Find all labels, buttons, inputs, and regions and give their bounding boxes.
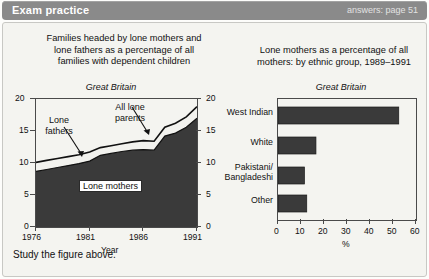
left-chart-title-line-2: lone fathers as a percentage of all: [15, 45, 233, 57]
left-ytickmark-15: [30, 130, 35, 131]
left-ytick-20: 20: [15, 93, 25, 103]
figure-panel: Families headed by lone mothers and lone…: [2, 22, 427, 277]
bar-white: [278, 137, 316, 154]
right-xtickmark-60: [415, 219, 416, 224]
annotation-all-lone-parents-line-1: All lone: [104, 102, 156, 113]
right-category-pakistani: Pakistani/: [219, 162, 273, 172]
left-chart-title-line-3: families with dependent children: [15, 56, 233, 68]
annotation-lone-mothers: Lone mothers: [79, 180, 142, 192]
page-title: Exam practice: [12, 4, 89, 16]
left-chart-title-line-1: Families headed by lone mothers and: [15, 33, 233, 45]
left-chart-subtitle: Great Britain: [15, 82, 207, 92]
right-category-west-indian: West Indian: [225, 107, 273, 117]
right-category-pakistani-bangladeshi: Pakistani/ Bangladeshi: [219, 162, 273, 182]
right-chart-title-line-1: Lone mothers as a percentage of all: [239, 45, 429, 57]
left-ytickmark-right-5: [196, 194, 201, 195]
answers-reference: answers: page 51: [347, 5, 418, 15]
left-xtickmark-1986: [142, 226, 143, 231]
arrowhead-all-lone-parents: [144, 129, 151, 135]
left-xtick-1981: 1981: [76, 232, 95, 242]
right-category-bangladeshi: Bangladeshi: [219, 172, 273, 182]
left-ytickmark-20: [30, 98, 35, 99]
right-xtick-40: 40: [364, 226, 374, 236]
left-xtick-1991: 1991: [183, 232, 202, 242]
right-category-white: White: [225, 137, 273, 147]
right-xtick-20: 20: [318, 226, 328, 236]
right-xtick-10: 10: [295, 226, 305, 236]
annotation-lone-fathers-line-2: fathers: [36, 126, 82, 137]
left-ytick-right-10: 10: [206, 157, 216, 167]
chart-lone-mothers-ethnic: Lone mothers as a percentage of all moth…: [241, 23, 429, 276]
right-chart-title-line-2: mothers: by ethnic group, 1989–1991: [239, 57, 429, 69]
left-xtickmark-1991: [196, 226, 197, 231]
left-chart-title: Families headed by lone mothers and lone…: [15, 33, 233, 68]
annotation-lone-fathers-line-1: Lone: [36, 115, 82, 126]
left-ytick-10: 10: [19, 157, 29, 167]
left-ytick-right-0: 0: [206, 221, 211, 231]
annotation-lone-fathers: Lone fathers: [36, 115, 82, 137]
header-bar: Exam practice answers: page 51: [2, 1, 427, 20]
left-ytick-right-15: 15: [206, 125, 216, 135]
right-chart-title: Lone mothers as a percentage of all moth…: [239, 45, 429, 68]
left-ytickmark-right-15: [196, 130, 201, 131]
exam-practice-page: Exam practice answers: page 51 Families …: [0, 0, 429, 279]
left-ytickmark-5: [30, 194, 35, 195]
left-ytick-5: 5: [24, 189, 29, 199]
right-xtickmark-30: [346, 219, 347, 224]
figure-caption: Study the figure above.: [13, 249, 116, 260]
left-xtickmark-1981: [89, 226, 90, 231]
annotation-all-lone-parents: All lone parents: [104, 102, 156, 124]
left-ytick-right-20: 20: [206, 93, 216, 103]
bar-other: [278, 195, 307, 212]
chart-lone-parents-trend: Families headed by lone mothers and lone…: [3, 23, 243, 276]
right-xtickmark-20: [323, 219, 324, 224]
left-xtick-1986: 1986: [129, 232, 148, 242]
right-xtick-60: 60: [410, 226, 420, 236]
right-chart-xaxis-label: %: [342, 239, 350, 249]
left-ytick-15: 15: [19, 125, 29, 135]
right-chart-plot-area: [277, 98, 417, 221]
right-chart-svg: [278, 99, 416, 220]
left-ytickmark-right-10: [196, 162, 201, 163]
right-chart-subtitle: Great Britain: [261, 82, 421, 92]
right-xtickmark-0: [277, 219, 278, 224]
bar-west-indian: [278, 107, 399, 124]
right-category-other: Other: [225, 195, 273, 205]
right-xtickmark-10: [300, 219, 301, 224]
left-ytickmark-10: [30, 162, 35, 163]
annotation-all-lone-parents-line-2: parents: [104, 113, 156, 124]
left-xtickmark-1976: [35, 226, 36, 231]
left-ytick-0: 0: [24, 221, 29, 231]
left-ytickmark-right-20: [196, 98, 201, 99]
right-xtickmark-50: [392, 219, 393, 224]
right-xtick-30: 30: [341, 226, 351, 236]
left-xtick-1976: 1976: [22, 232, 41, 242]
right-xtick-50: 50: [387, 226, 397, 236]
bar-pakistani-bangladeshi: [278, 167, 304, 184]
left-ytick-right-5: 5: [206, 189, 211, 199]
right-xtickmark-40: [369, 219, 370, 224]
right-xtick-0: 0: [274, 226, 279, 236]
